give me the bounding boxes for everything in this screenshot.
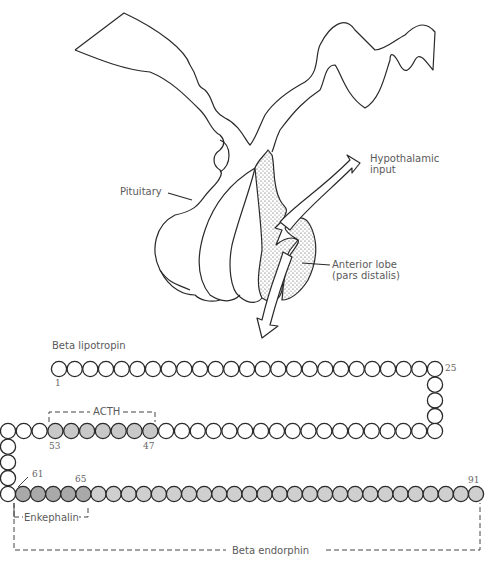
residue-circle	[380, 423, 395, 438]
residue-circle	[453, 486, 468, 501]
residue-circle	[396, 361, 411, 376]
hypothalamic-line2: input	[370, 164, 439, 175]
residue-circle	[95, 423, 110, 438]
residue-circle	[0, 471, 15, 486]
residue-circle	[380, 361, 395, 376]
residue-circle	[166, 486, 181, 501]
residue-circle	[365, 361, 380, 376]
residue-circle	[412, 361, 427, 376]
hypothalamic-input-arrow	[280, 155, 360, 230]
residue-circle	[136, 486, 151, 501]
residue-circle	[67, 361, 82, 376]
beta-lipotropin-label: Beta lipotropin	[52, 340, 126, 351]
residue-circle	[287, 486, 302, 501]
residue-circle	[80, 423, 95, 438]
residue-circle	[83, 361, 98, 376]
residue-circle	[242, 486, 257, 501]
pituitary-label: Pituitary	[120, 186, 162, 197]
residue-circle	[348, 423, 363, 438]
residue-circle	[272, 486, 287, 501]
residue-circle	[0, 486, 15, 501]
residue-circle	[106, 486, 121, 501]
residue-circle	[427, 423, 442, 438]
residue-circle	[51, 361, 66, 376]
residue-circle	[427, 409, 442, 424]
residue-circle	[348, 486, 363, 501]
residue-circle	[271, 361, 286, 376]
beta-endorphin-label: Beta endorphin	[230, 545, 311, 556]
residue-circle	[61, 486, 76, 501]
middle-lobe	[199, 168, 255, 301]
residue-circle	[208, 361, 223, 376]
residue-circle	[393, 486, 408, 501]
left-stalk-lower	[75, 50, 224, 290]
residue-circle	[192, 361, 207, 376]
residue-circle	[145, 361, 160, 376]
residue-circle	[114, 361, 129, 376]
residue-circle	[222, 423, 237, 438]
residue-circle	[302, 486, 317, 501]
residue-circle	[427, 377, 442, 392]
residue-circle	[255, 361, 270, 376]
residue-circle	[15, 486, 30, 501]
residue-circle	[64, 423, 79, 438]
residue-circle	[423, 486, 438, 501]
residue-circle	[161, 361, 176, 376]
anterior-line2: (pars distalis)	[332, 270, 400, 281]
residue-circle	[301, 423, 316, 438]
residue-circle	[151, 486, 166, 501]
residue-circle	[32, 423, 47, 438]
residue-circle	[30, 486, 45, 501]
residue-circle	[427, 361, 442, 376]
beta-endorphin-bracket	[14, 503, 480, 550]
residue-circle	[333, 486, 348, 501]
residue-circle	[285, 423, 300, 438]
residue-circle	[91, 486, 106, 501]
residue-47: 47	[143, 441, 154, 451]
residue-circle	[253, 423, 268, 438]
residue-circle	[363, 486, 378, 501]
residue-91: 91	[468, 475, 479, 485]
residue-circle	[127, 423, 142, 438]
residue-61: 61	[32, 469, 43, 479]
left-stalk	[75, 13, 435, 152]
peptide-chain	[0, 361, 483, 501]
residue-circle	[302, 361, 317, 376]
residue-circle	[0, 423, 15, 438]
residue-circle	[190, 423, 205, 438]
enkephalin-label: Enkephalin	[24, 512, 79, 523]
residue-circle	[224, 361, 239, 376]
residue-circle	[396, 423, 411, 438]
residue-circle	[333, 423, 348, 438]
residue-circle	[0, 455, 15, 470]
residue-circle	[317, 423, 332, 438]
anterior-line1: Anterior lobe	[332, 259, 400, 270]
residue-circle	[257, 486, 272, 501]
residue-circle	[349, 361, 364, 376]
residue-circle	[438, 486, 453, 501]
residue-circle	[318, 361, 333, 376]
residue-circle	[333, 361, 348, 376]
residue-circle	[212, 486, 227, 501]
residue-circle	[408, 486, 423, 501]
residue-65: 65	[75, 474, 86, 484]
residue-circle	[46, 486, 61, 501]
residue-circle	[238, 423, 253, 438]
residue-circle	[227, 486, 242, 501]
residue-circle	[412, 423, 427, 438]
residue-circle	[286, 361, 301, 376]
residue-1: 1	[55, 378, 61, 388]
residue-25: 25	[445, 363, 456, 373]
residue-circle	[130, 361, 145, 376]
residue-circle	[239, 361, 254, 376]
residue-circle	[16, 423, 31, 438]
residue-circle	[76, 486, 91, 501]
residue-circle	[364, 423, 379, 438]
hypothalamic-input-label: Hypothalamic input	[370, 153, 439, 175]
residue-circle	[143, 423, 158, 438]
posterior-lobe-outer	[160, 270, 220, 301]
residue-circle	[182, 486, 197, 501]
residue-circle	[0, 439, 15, 454]
residue-circle	[317, 486, 332, 501]
residue-53: 53	[49, 441, 60, 451]
